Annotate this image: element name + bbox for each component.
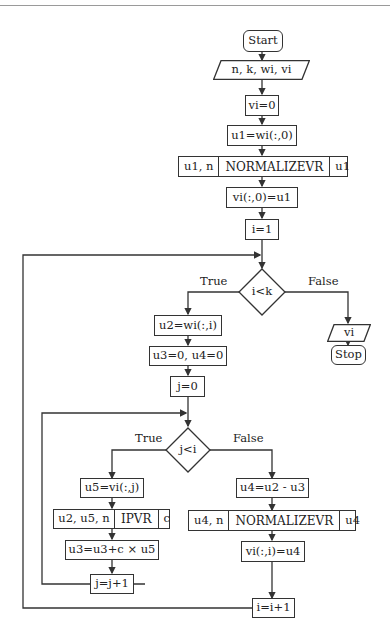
u4-assign-box: u4=u2 - u3 [236, 478, 309, 498]
normalize2-inputs: u4, n [189, 511, 228, 530]
vi0-assign-box: vi(:,0)=u1 [226, 187, 298, 208]
u3-update-box: u3=u3+c × u5 [65, 540, 159, 560]
ipvr-call: u2, u5, n IPVR c [53, 509, 170, 529]
normalize2-name: NORMALIZEVR [228, 511, 339, 530]
normalize1-output: u1 [329, 157, 355, 176]
output-parallelogram: vi [327, 324, 371, 342]
u5-assign-box: u5=vi(:,j) [80, 478, 144, 498]
i-inc-label: i=i+1 [257, 602, 291, 614]
start-terminal: Start [243, 30, 283, 52]
outer-false-label: False [308, 274, 338, 288]
vii-assign-label: vi(:,i)=u4 [246, 546, 301, 558]
normalizevr-call-1: u1, n NORMALIZEVR u1 [178, 156, 348, 177]
ipvr-name: IPVR [114, 510, 158, 528]
i-init-label: i=1 [252, 224, 273, 236]
ipvr-inputs: u2, u5, n [54, 510, 114, 528]
j-inc-label: j=j+1 [95, 578, 129, 590]
input-label: n, k, wi, vi [231, 64, 291, 76]
decision-i-lt-k: i<k [238, 268, 286, 316]
decision-i-lt-k-label: i<k [252, 286, 272, 298]
u1-assign-box: u1=wi(:,0) [227, 125, 297, 146]
input-parallelogram: n, k, wi, vi [213, 60, 310, 80]
u2-assign-box: u2=wi(:,i) [154, 315, 222, 336]
decision-j-lt-i: j<i [165, 427, 211, 473]
stop-label: Stop [335, 349, 362, 361]
u3u4-init-label: u3=0, u4=0 [153, 350, 224, 362]
j-init-box: j=0 [170, 376, 205, 397]
vii-assign-box: vi(:,i)=u4 [241, 541, 305, 562]
i-init-box: i=1 [245, 219, 279, 240]
u5-assign-label: u5=vi(:,j) [85, 482, 140, 494]
init-vi-label: vi=0 [248, 100, 275, 112]
j-init-label: j=0 [177, 381, 198, 393]
normalize1-name: NORMALIZEVR [218, 157, 329, 176]
u2-assign-label: u2=wi(:,i) [159, 320, 217, 332]
normalize2-output: u4 [339, 511, 365, 530]
u4-assign-label: u4=u2 - u3 [240, 482, 305, 494]
normalize1-inputs: u1, n [179, 157, 218, 176]
output-label: vi [344, 327, 354, 339]
u3-update-label: u3=u3+c × u5 [69, 544, 156, 556]
init-vi-box: vi=0 [245, 95, 279, 116]
start-label: Start [248, 35, 277, 47]
outer-true-label: True [200, 274, 227, 288]
inner-false-label: False [233, 431, 263, 445]
normalizevr-call-2: u4, n NORMALIZEVR u4 [188, 510, 356, 531]
decision-j-lt-i-label: j<i [180, 444, 197, 456]
u1-assign-label: u1=wi(:,0) [231, 130, 293, 142]
ipvr-output: c [158, 510, 175, 528]
u3u4-init-box: u3=0, u4=0 [149, 346, 227, 366]
vi0-assign-label: vi(:,0)=u1 [233, 192, 291, 204]
inner-true-label: True [135, 431, 162, 445]
j-inc-box: j=j+1 [90, 574, 134, 594]
i-inc-box: i=i+1 [252, 598, 295, 618]
stop-terminal: Stop [331, 345, 366, 365]
